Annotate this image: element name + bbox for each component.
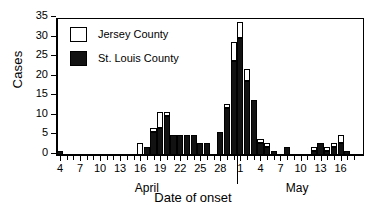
x-tick-may-3 [254,156,255,160]
x-tick-label-16-4: 16 [130,162,150,175]
x-tick-apr-20 [167,156,168,160]
y-axis-title: Cases [10,25,25,115]
x-tick-label-16-14: 16 [331,162,351,175]
x-tick-label-19-5: 19 [150,162,170,175]
x-tick-label-25-7: 25 [190,162,210,175]
x-tick-apr-14 [127,156,128,160]
x-tick-may-12 [314,156,315,160]
x-tick-apr-29 [227,156,228,160]
x-tick-apr-11 [107,156,108,160]
x-tick-apr-6 [73,156,74,160]
bar-segment-stlouis [57,151,63,155]
x-tick-apr-22 [180,156,181,161]
bar-segment-stlouis [338,143,344,155]
x-tick-label-28-8: 28 [210,162,230,175]
y-tick-5: 5 [51,133,56,134]
bar-segment-jersey [164,112,170,116]
y-tick-20: 20 [51,75,56,76]
x-tick-apr-30 [234,156,235,160]
bar-segment-jersey [257,139,263,143]
legend-entry-jersey: Jersey County [70,22,179,46]
bar-segment-stlouis [224,108,230,155]
bar-segment-stlouis [331,147,337,155]
x-tick-apr-24 [194,156,195,160]
bar-segment-stlouis [191,135,197,155]
bar-segment-stlouis [284,147,290,155]
bar-segment-stlouis [244,81,250,155]
y-tick-25: 25 [51,55,56,56]
x-tick-apr-21 [174,156,175,160]
x-tick-may-2 [247,156,248,160]
bar-segment-stlouis [317,143,323,155]
x-tick-apr-8 [87,156,88,160]
bar-segment-stlouis [324,151,330,155]
x-tick-apr-18 [154,156,155,160]
bar-segment-stlouis [150,132,156,155]
plot-right-border [363,18,364,155]
y-tick-label-25: 25 [36,48,48,61]
bar-segment-stlouis [251,100,257,155]
bar-segment-stlouis [170,135,176,155]
x-tick-may-1 [240,156,241,161]
bar-segment-jersey [224,104,230,108]
x-tick-apr-7 [80,156,81,161]
bar-segment-jersey [231,42,237,62]
bar-may-2 [244,69,250,155]
epidemic-curve-chart: Cases 05101520253035 4710131619222528147… [0,0,386,217]
x-tick-may-6 [274,156,275,160]
y-tick-label-5: 5 [42,126,48,139]
y-tick-15: 15 [51,94,56,95]
x-tick-may-11 [307,156,308,160]
bar-segment-jersey [338,135,344,143]
bar-segment-stlouis [344,151,350,155]
bar-may-14 [324,147,330,155]
bar-may-1 [237,22,243,155]
bar-segment-jersey [324,147,330,151]
x-tick-apr-5 [67,156,68,160]
y-tick-label-0: 0 [42,146,48,159]
x-tick-apr-19 [160,156,161,161]
x-tick-may-14 [327,156,328,160]
x-tick-label-13-3: 13 [110,162,130,175]
bar-segment-jersey [157,112,163,128]
x-tick-may-16 [341,156,342,161]
x-tick-may-17 [347,156,348,160]
x-tick-apr-4 [60,156,61,161]
x-tick-apr-26 [207,156,208,160]
y-tick-30: 30 [51,36,56,37]
x-tick-label-10-12: 10 [291,162,311,175]
y-tick-0: 0 [51,153,56,154]
bar-may-13 [317,143,323,155]
legend-entry-stlouis: St. Louis County [70,46,179,70]
x-tick-may-10 [301,156,302,161]
x-tick-may-4 [260,156,261,161]
bar-segment-stlouis [271,151,277,155]
bar-apr-24 [191,135,197,155]
bar-apr-23 [184,135,190,155]
bar-segment-stlouis [164,116,170,155]
x-tick-label-22-6: 22 [170,162,190,175]
bar-segment-stlouis [231,61,237,155]
x-tick-may-15 [334,156,335,160]
x-tick-label-7-1: 7 [70,162,90,175]
x-tick-apr-10 [100,156,101,161]
month-divider-line [237,156,238,184]
bar-apr-25 [197,143,203,155]
bar-apr-30 [231,42,237,156]
y-axis-line [56,18,58,156]
bar-may-8 [284,147,290,155]
x-tick-may-5 [267,156,268,160]
bar-may-12 [311,147,317,155]
bar-apr-21 [170,135,176,155]
bar-segment-stlouis [311,151,317,155]
x-tick-may-7 [280,156,281,161]
x-tick-apr-28 [220,156,221,161]
bar-apr-28 [217,132,223,155]
bar-may-5 [264,143,270,155]
y-tick-10: 10 [51,114,56,115]
bar-may-3 [251,100,257,155]
bar-may-4 [257,139,263,155]
x-tick-may-13 [321,156,322,161]
legend-swatch-filled-icon [70,51,87,66]
bar-segment-jersey [331,143,337,147]
